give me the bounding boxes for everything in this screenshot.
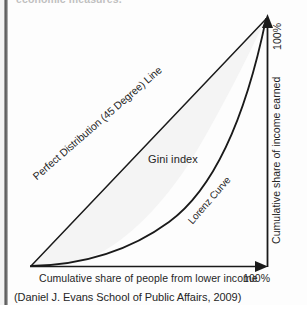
y-axis-title: Cumulative share of income earned [270, 77, 282, 244]
y-axis-max-tick: 100% [271, 23, 283, 50]
scanned-page: economic measures. Perfect Distribution … [0, 0, 307, 317]
x-axis-max-tick: 100% [243, 272, 270, 284]
gini-index-label: Gini index [148, 153, 198, 165]
x-axis-arrowhead [255, 261, 268, 272]
x-axis-title: Cumulative share of people from lower in… [39, 272, 258, 284]
lorenz-curve-figure: Perfect Distribution (45 Degree) Line Lo… [0, 0, 307, 317]
page-bottom-margin [0, 305, 307, 317]
figure-source-citation: (Daniel J. Evans School of Public Affair… [14, 291, 241, 303]
